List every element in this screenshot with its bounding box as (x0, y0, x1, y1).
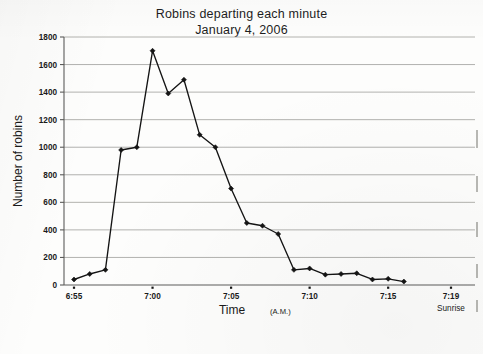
scan-margin-mark-4 (476, 264, 478, 278)
scan-margin-mark-5 (476, 300, 478, 312)
y-tick-label-1000: 1000 (39, 143, 58, 152)
data-point-7-12 (339, 271, 344, 276)
data-point-7-13 (354, 271, 359, 276)
data-point-7-11 (323, 272, 328, 277)
data-point-7-00 (150, 48, 155, 53)
data-point-6-59 (134, 145, 139, 150)
figure-page: Robins departing each minute January 4, … (0, 0, 483, 354)
robins-line-chart: 020040060080010001200140016001800 6:557:… (0, 0, 483, 354)
x-tick-7-15 (387, 287, 389, 289)
scan-margin-mark-3 (476, 222, 478, 237)
x-axis-title-suffix: (A.M.) (270, 307, 291, 316)
scan-margin-mark-1 (476, 130, 478, 148)
data-point-7-06 (244, 221, 249, 226)
x-tick-7-05 (230, 287, 232, 289)
x-tick-7-00 (151, 287, 153, 289)
x-axis-title: Time (219, 303, 246, 317)
y-axis-group: 020040060080010001200140016001800 (39, 33, 64, 290)
data-point-7-08 (276, 232, 281, 237)
y-tick-label-1800: 1800 (39, 33, 58, 42)
y-tick-label-0: 0 (52, 281, 57, 290)
x-tick-label-7-05: 7:05 (223, 292, 240, 301)
y-tick-label-600: 600 (43, 198, 57, 207)
data-point-7-16 (401, 279, 406, 284)
data-point-7-15 (386, 276, 391, 281)
data-series-group (72, 48, 407, 284)
y-tick-label-400: 400 (43, 226, 57, 235)
y-tick-label-200: 200 (43, 253, 57, 262)
y-tick-label-800: 800 (43, 171, 57, 180)
data-point-7-07 (260, 223, 265, 228)
x-tick-7-19 (450, 287, 452, 289)
x-tick-7-10 (309, 287, 311, 289)
data-point-7-09 (291, 267, 296, 272)
data-point-6-57 (103, 267, 108, 272)
data-point-6-56 (87, 271, 92, 276)
scan-margin-mark-2 (476, 176, 478, 192)
data-point-6-58 (119, 147, 124, 152)
x-tick-6-55 (73, 287, 75, 289)
y-axis-title: Number of robins (11, 115, 25, 207)
x-tick-label-7-00: 7:00 (144, 292, 161, 301)
data-line-robins-departing (74, 51, 404, 282)
data-point-7-10 (307, 266, 312, 271)
x-tick-label-7-19: 7:19 (443, 292, 460, 301)
y-tick-label-1600: 1600 (39, 61, 58, 70)
y-tick-label-1400: 1400 (39, 88, 58, 97)
data-point-6-55 (72, 277, 77, 282)
x-tick-label-7-10: 7:10 (301, 292, 318, 301)
x-tick-label-6-55: 6:55 (66, 292, 83, 301)
data-point-7-05 (229, 186, 234, 191)
sunrise-annotation: Sunrise (437, 304, 465, 313)
x-tick-label-7-15: 7:15 (380, 292, 397, 301)
data-point-7-14 (370, 277, 375, 282)
gridlines-group (64, 37, 475, 257)
y-tick-label-1200: 1200 (39, 116, 58, 125)
